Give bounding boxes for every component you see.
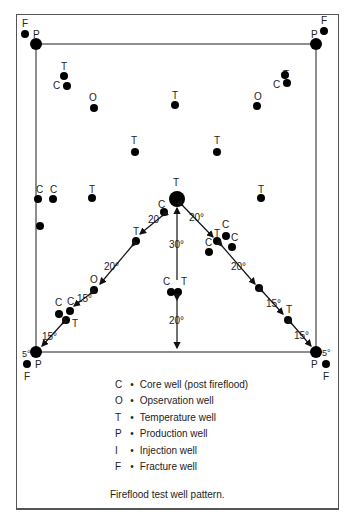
production-well-sw <box>30 346 42 358</box>
svg-text:T: T <box>173 177 179 188</box>
svg-text:O: O <box>90 274 98 285</box>
svg-text:C: C <box>50 184 57 195</box>
svg-text:T: T <box>61 61 67 72</box>
fracture-well-ne <box>320 27 328 35</box>
figure-caption: Fireflood test well pattern. <box>110 489 225 500</box>
svg-text:30°: 30° <box>169 239 184 250</box>
production-well-se <box>310 346 322 358</box>
injection-well <box>169 191 185 207</box>
svg-text:T: T <box>133 226 139 237</box>
legend-row-fracture: F• Fracture well <box>115 459 248 476</box>
svg-text:5°: 5° <box>322 348 331 358</box>
svg-text:C: C <box>67 296 74 307</box>
svg-text:F: F <box>323 371 329 382</box>
legend: C• Core well (post fireflood) O• Opserva… <box>115 376 248 475</box>
svg-text:T: T <box>89 184 95 195</box>
svg-text:T: T <box>181 276 187 287</box>
svg-text:C: C <box>231 232 238 243</box>
legend-row-core: C• Core well (post fireflood) <box>115 376 248 393</box>
svg-text:F: F <box>24 371 30 382</box>
svg-text:20°: 20° <box>189 212 204 223</box>
svg-text:C: C <box>205 237 212 248</box>
svg-text:C: C <box>273 79 280 90</box>
svg-text:C: C <box>163 276 170 287</box>
svg-text:F: F <box>321 15 327 26</box>
legend-row-observation: O• Opservation well <box>115 393 248 410</box>
legend-row-injection: I• Injection well <box>115 442 248 459</box>
svg-text:O: O <box>89 92 97 103</box>
svg-text:C: C <box>53 80 60 91</box>
svg-text:C: C <box>222 219 229 230</box>
fracture-well-nw <box>21 30 29 38</box>
svg-text:P: P <box>33 29 40 40</box>
svg-text:5°: 5° <box>22 349 31 359</box>
svg-text:T: T <box>214 135 220 146</box>
svg-text:P: P <box>35 359 42 370</box>
svg-text:T: T <box>172 90 178 101</box>
svg-text:C: C <box>55 297 62 308</box>
svg-text:P: P <box>311 359 318 370</box>
svg-text:F: F <box>22 18 28 29</box>
svg-text:C: C <box>36 184 43 195</box>
svg-text:O: O <box>254 91 262 102</box>
fracture-well-se <box>322 360 330 368</box>
legend-row-production: P• Production well <box>115 426 248 443</box>
legend-row-temperature: T• Temperature well <box>115 409 248 426</box>
svg-text:T: T <box>258 184 264 195</box>
svg-text:P: P <box>311 29 318 40</box>
fracture-well-sw <box>23 360 31 368</box>
svg-text:T: T <box>72 318 78 329</box>
svg-text:T: T <box>286 304 292 315</box>
svg-text:T: T <box>131 135 137 146</box>
